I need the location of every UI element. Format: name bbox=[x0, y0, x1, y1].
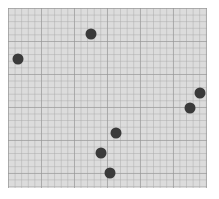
data-point bbox=[111, 128, 122, 139]
data-point bbox=[195, 88, 206, 99]
data-point bbox=[105, 168, 116, 179]
scatter-plot-grid bbox=[8, 8, 207, 188]
data-point bbox=[96, 148, 107, 159]
data-point bbox=[86, 29, 97, 40]
data-point bbox=[185, 103, 196, 114]
data-point bbox=[13, 54, 24, 65]
